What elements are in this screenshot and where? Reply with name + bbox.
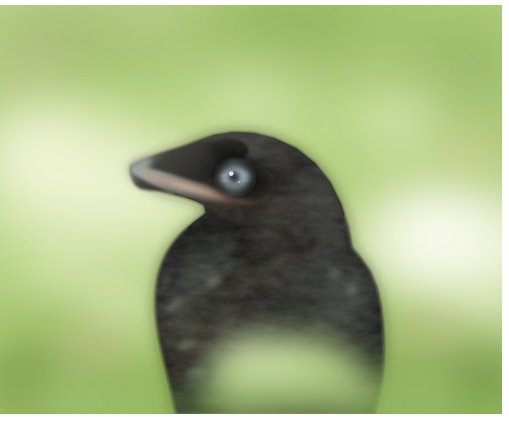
- scan-lines: [0, 5, 502, 414]
- photo-margin-right: [502, 0, 509, 432]
- photo-margin-top: [0, 0, 509, 5]
- photo-margin-bottom: [0, 414, 509, 432]
- crow-photograph: [0, 5, 502, 414]
- photo-canvas: [0, 0, 509, 432]
- crow-photo-svg: [0, 5, 502, 414]
